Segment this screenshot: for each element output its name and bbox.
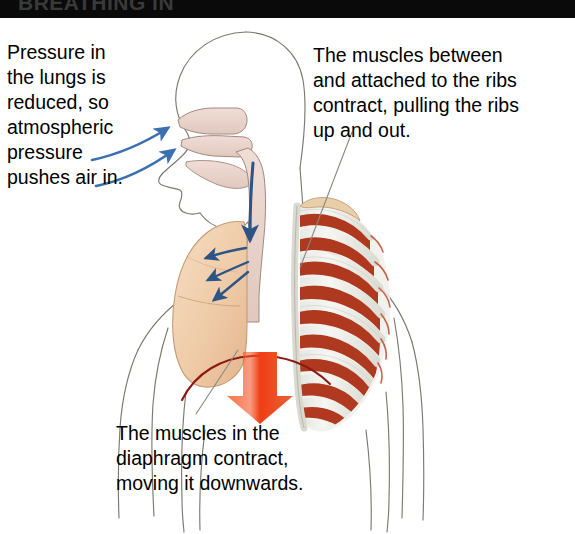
diagram-canvas: BREATHING IN (0, 0, 575, 534)
callout-diaphragm-contraction: The muscles in the diaphragm contract, m… (116, 421, 406, 496)
rib-cage (295, 197, 391, 441)
callout-pressure-in-lungs: Pressure in the lungs is reduced, so atm… (7, 40, 172, 190)
left-lung (173, 222, 247, 388)
callout-intercostal-muscles: The muscles between and attached to the … (313, 43, 575, 143)
